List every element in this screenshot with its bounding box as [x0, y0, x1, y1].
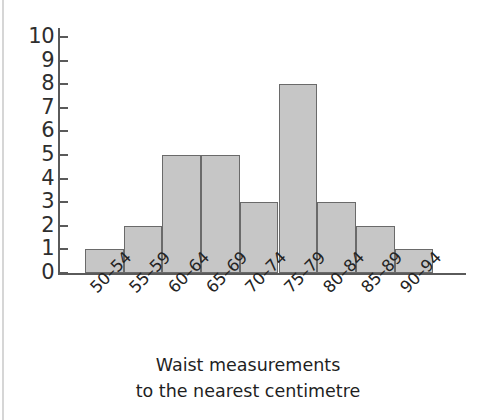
- histogram-bar: [279, 84, 318, 273]
- histogram-figure: 109876543210 50–5455–5960–6465–6970–7475…: [0, 0, 496, 420]
- axis-title-line-2: to the nearest centimetre: [0, 378, 496, 404]
- axis-title-line-1: Waist measurements: [0, 352, 496, 378]
